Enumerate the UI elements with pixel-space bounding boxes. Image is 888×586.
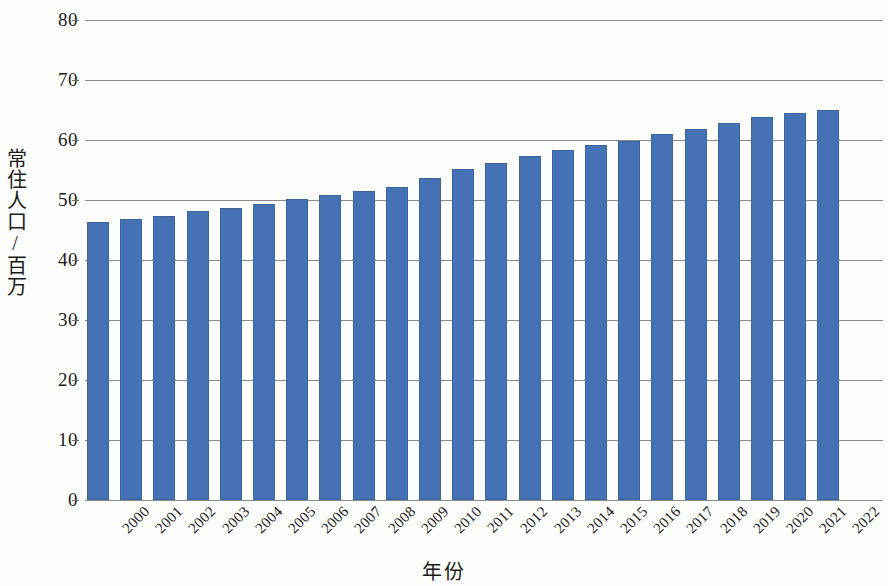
y-tick-mark-10 bbox=[72, 440, 79, 441]
x-tick-label-2009: 2009 bbox=[418, 503, 452, 537]
bar-2004[interactable] bbox=[220, 208, 242, 500]
bar-2021[interactable] bbox=[784, 113, 806, 500]
bar-2018[interactable] bbox=[685, 129, 707, 500]
x-tick-label-2012: 2012 bbox=[518, 503, 552, 537]
x-tick-label-2008: 2008 bbox=[385, 503, 419, 537]
x-axis-title: 年份 bbox=[0, 556, 888, 585]
bar-2020[interactable] bbox=[751, 117, 773, 500]
chart-figure: 01020304050607080 常住人口/百万 20002001200220… bbox=[0, 0, 888, 586]
bar-2022[interactable] bbox=[817, 110, 839, 500]
x-axis: 2000200120022003200420052006200720082009… bbox=[85, 503, 883, 563]
bar-2012[interactable] bbox=[485, 163, 507, 500]
gridline-0 bbox=[85, 500, 883, 501]
plot-area bbox=[85, 20, 883, 500]
x-tick-label-2004: 2004 bbox=[252, 503, 286, 537]
bar-2006[interactable] bbox=[286, 199, 308, 500]
bar-2019[interactable] bbox=[718, 123, 740, 500]
x-tick-label-2022: 2022 bbox=[850, 503, 884, 537]
bar-2010[interactable] bbox=[419, 178, 441, 500]
bar-2007[interactable] bbox=[319, 195, 341, 500]
x-tick-label-2011: 2011 bbox=[484, 503, 518, 537]
y-tick-mark-40 bbox=[72, 260, 79, 261]
x-tick-label-2003: 2003 bbox=[219, 503, 253, 537]
x-tick-label-2018: 2018 bbox=[717, 503, 751, 537]
x-tick-label-2013: 2013 bbox=[551, 503, 585, 537]
y-tick-mark-30 bbox=[72, 320, 79, 321]
x-tick-label-2019: 2019 bbox=[750, 503, 784, 537]
bar-2015[interactable] bbox=[585, 145, 607, 500]
gridline-80 bbox=[85, 20, 883, 21]
x-tick-label-2015: 2015 bbox=[617, 503, 651, 537]
bar-2011[interactable] bbox=[452, 169, 474, 500]
y-tick-mark-20 bbox=[72, 380, 79, 381]
x-tick-label-2002: 2002 bbox=[186, 503, 220, 537]
x-tick-label-2000: 2000 bbox=[119, 503, 153, 537]
bar-2003[interactable] bbox=[187, 211, 209, 500]
x-tick-label-2016: 2016 bbox=[650, 503, 684, 537]
x-tick-label-2017: 2017 bbox=[684, 503, 718, 537]
bar-2001[interactable] bbox=[120, 219, 142, 500]
bar-2000[interactable] bbox=[87, 222, 109, 500]
x-tick-label-2020: 2020 bbox=[783, 503, 817, 537]
bar-2005[interactable] bbox=[253, 204, 275, 500]
y-tick-mark-0 bbox=[72, 500, 79, 501]
x-tick-label-2007: 2007 bbox=[352, 503, 386, 537]
gridline-70 bbox=[85, 80, 883, 81]
x-tick-label-2001: 2001 bbox=[152, 503, 186, 537]
y-axis-title: 常住人口/百万 bbox=[0, 148, 30, 297]
x-tick-label-2010: 2010 bbox=[451, 503, 485, 537]
x-tick-label-2014: 2014 bbox=[584, 503, 618, 537]
bar-2014[interactable] bbox=[552, 150, 574, 500]
x-tick-label-2021: 2021 bbox=[816, 503, 850, 537]
bar-2009[interactable] bbox=[386, 187, 408, 500]
x-tick-label-2005: 2005 bbox=[285, 503, 319, 537]
bar-2008[interactable] bbox=[353, 191, 375, 500]
bar-2013[interactable] bbox=[519, 156, 541, 500]
y-tick-mark-60 bbox=[72, 140, 79, 141]
x-tick-label-2006: 2006 bbox=[318, 503, 352, 537]
bar-2017[interactable] bbox=[651, 134, 673, 500]
y-tick-mark-70 bbox=[72, 80, 79, 81]
bar-2002[interactable] bbox=[153, 216, 175, 500]
y-tick-mark-80 bbox=[72, 20, 79, 21]
bar-2016[interactable] bbox=[618, 141, 640, 500]
y-tick-mark-50 bbox=[72, 200, 79, 201]
